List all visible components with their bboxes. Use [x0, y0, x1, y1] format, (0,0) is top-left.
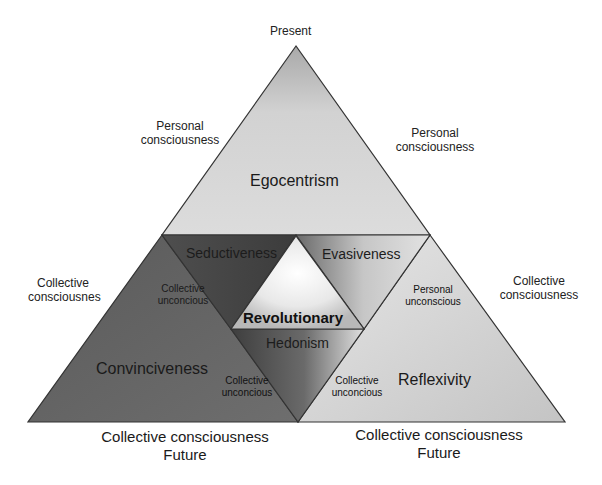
label-present: Present [270, 24, 311, 38]
edge-label-upper-left: Collective unconcious [150, 283, 216, 307]
label-mid-left-text: Collective consciousnes [28, 276, 101, 304]
bottom-label-left-line1: Collective consciousness [70, 428, 300, 446]
label-upper-right-text: Personal consciousness [396, 126, 475, 154]
region-label-reflexivity: Reflexivity [398, 370, 471, 389]
region-label-seductiveness: Seductiveness [186, 245, 277, 262]
edge-label-lower-left-text: Collective unconcious [222, 375, 273, 398]
edge-label-lower-left: Collective unconcious [214, 375, 280, 399]
bottom-label-right-line2: Future [324, 444, 554, 462]
region-label-egocentrism: Egocentrism [250, 171, 339, 190]
label-upper-left-text: Personal consciousness [141, 119, 220, 147]
triangle-diagram [0, 0, 602, 485]
bottom-label-left: Collective consciousness Future [70, 428, 300, 464]
bottom-label-right-line1: Collective consciousness [324, 426, 554, 444]
label-mid-left-side: Collective consciousnes [28, 276, 98, 305]
region-label-revolutionary: Revolutionary [243, 309, 343, 327]
label-upper-right-side: Personal consciousness [380, 126, 490, 155]
bottom-label-right: Collective consciousness Future [324, 426, 554, 462]
edge-label-upper-right: Personal unconscious [400, 284, 466, 308]
bottom-label-left-line2: Future [70, 446, 300, 464]
region-label-hedonism: Hedonism [266, 335, 329, 352]
edge-label-upper-left-text: Collective unconcious [158, 283, 209, 306]
label-mid-right-text: Collective consciousness [500, 274, 579, 302]
label-mid-right-side: Collective consciousness [484, 274, 594, 303]
region-label-evasiveness: Evasiveness [322, 246, 401, 263]
region-label-convinciveness: Convinciveness [96, 359, 208, 378]
edge-label-upper-right-text: Personal unconscious [405, 284, 461, 307]
edge-label-lower-right-text: Collective unconcious [332, 375, 383, 398]
edge-label-lower-right: Collective unconcious [324, 375, 390, 399]
label-upper-left-side: Personal consciousness [130, 119, 230, 148]
